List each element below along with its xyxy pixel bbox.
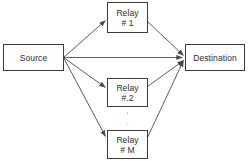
node-destination[interactable]: Destination	[185, 44, 245, 71]
node-relay-2-label-line2: #.2	[121, 93, 133, 103]
vertical-ellipsis-icon	[125, 112, 130, 125]
relay-network-diagram: Source Relay # 1 Relay #.2 Relay # M Des…	[0, 0, 249, 161]
node-relay-1-label-line1: Relay	[116, 8, 138, 18]
edge-source-relay1	[64, 21, 106, 58]
node-source[interactable]: Source	[3, 44, 64, 71]
node-relay-2-label-line1: Relay	[116, 83, 138, 93]
node-source-label: Source	[20, 53, 48, 63]
edge-relay1-destination	[148, 22, 184, 56]
edge-source-relay2	[64, 58, 106, 88]
edge-relayM-destination	[148, 61, 184, 138]
node-relay-1[interactable]: Relay # 1	[107, 2, 148, 33]
node-relay-m-label-line2: # M	[120, 145, 134, 155]
edge-relay2-destination	[148, 61, 184, 87]
node-relay-1-label-line2: # 1	[121, 18, 133, 28]
node-relay-2[interactable]: Relay #.2	[107, 78, 148, 107]
node-relay-m[interactable]: Relay # M	[107, 130, 148, 159]
node-destination-label: Destination	[193, 53, 237, 63]
edge-source-relayM	[64, 58, 106, 137]
node-relay-m-label-line1: Relay	[116, 135, 138, 145]
